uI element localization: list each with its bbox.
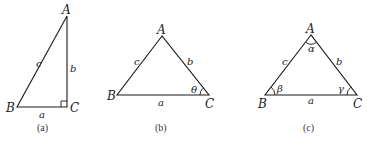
vertex-label-c-C: C [353, 97, 362, 111]
angle-label-b-theta: θ [191, 84, 197, 95]
triangle-c: A B C c b a α β γ (c) [257, 22, 362, 134]
right-angle-marker-icon [61, 101, 67, 107]
angle-label-c-alpha: α [308, 43, 315, 54]
angle-label-c-beta: β [276, 83, 283, 94]
triangle-b: A B C c b a θ (b) [106, 23, 214, 134]
vertex-label-b-A: A [156, 23, 166, 37]
triangle-a-outline [17, 16, 67, 107]
side-label-b-b: b [187, 56, 193, 67]
side-label-b-a: a [158, 97, 164, 108]
angle-arc-gamma-icon [347, 87, 351, 95]
angle-label-c-gamma: γ [338, 83, 344, 94]
vertex-label-b-B: B [106, 89, 116, 103]
vertex-label-b-C: C [205, 97, 214, 111]
side-label-c-b: b [336, 56, 342, 67]
vertex-label-a-B: B [5, 101, 15, 115]
side-label-b-c: c [134, 56, 140, 67]
side-label-c-c: c [282, 56, 288, 67]
caption-a: (a) [37, 122, 48, 134]
caption-c: (c) [303, 122, 314, 134]
vertex-label-c-B: B [257, 97, 267, 111]
side-label-a-b: b [70, 63, 76, 74]
caption-b: (b) [155, 122, 167, 134]
side-label-a-a: a [39, 109, 45, 120]
side-label-c-a: a [308, 95, 314, 106]
triangle-figure: A B C c b a (a) A B C c b a θ (b) [0, 0, 367, 146]
vertex-label-c-A: A [305, 22, 315, 36]
triangle-a: A B C c b a (a) [5, 3, 79, 134]
angle-arc-theta-icon [200, 88, 203, 95]
vertex-label-a-A: A [61, 3, 71, 17]
angle-arc-beta-icon [271, 87, 275, 95]
vertex-label-a-C: C [70, 101, 79, 115]
side-label-a-c: c [36, 58, 42, 69]
